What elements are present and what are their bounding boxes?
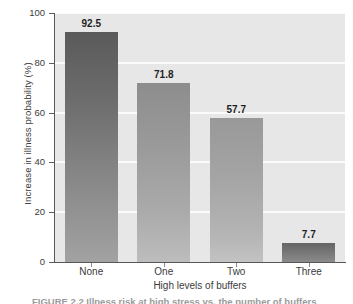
x-axis-label: High levels of buffers (55, 280, 345, 291)
x-tick-label: None (61, 266, 121, 277)
bar (65, 32, 118, 262)
x-tick-mark (309, 263, 310, 267)
plot-area (55, 13, 345, 262)
x-tick-label: One (134, 266, 194, 277)
x-axis-line (54, 262, 346, 263)
y-tick-label: 80 (19, 58, 45, 68)
y-tick-label: 20 (19, 207, 45, 217)
y-tick-label: 60 (19, 108, 45, 118)
bar-value-label: 57.7 (211, 105, 261, 115)
y-tick-label: 100 (19, 8, 45, 18)
x-tick-label: Three (279, 266, 339, 277)
x-tick-mark (164, 263, 165, 267)
bar-value-label: 92.5 (66, 19, 116, 29)
bar-value-label: 7.7 (284, 230, 334, 240)
gridline (55, 13, 345, 14)
bar-value-label: 71.8 (139, 70, 189, 80)
bar (210, 118, 263, 262)
x-tick-label: Two (206, 266, 266, 277)
bar (282, 243, 335, 262)
bar (137, 83, 190, 262)
y-tick-label: 40 (19, 157, 45, 167)
y-axis-label: Increase in illness probability (%) (22, 9, 33, 259)
x-tick-mark (236, 263, 237, 267)
y-tick-label: 0 (19, 257, 45, 267)
x-tick-mark (91, 263, 92, 267)
figure-caption: FIGURE 2.2 Illness risk at high stress v… (32, 296, 352, 304)
figure-bar-chart: Increase in illness probability (%) 0204… (0, 0, 353, 304)
